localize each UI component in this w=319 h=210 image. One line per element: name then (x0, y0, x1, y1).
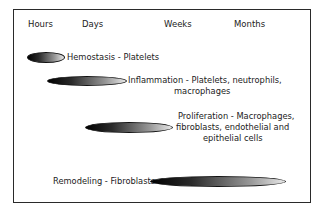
proliferation-label-line-2: fibroblasts, endothelial and (176, 122, 289, 133)
hemostasis-duration-bar (27, 52, 65, 63)
proliferation-duration-bar (85, 122, 173, 133)
timeline-label-days: Days (82, 19, 103, 30)
proliferation-label-line-3: epithelial cells (203, 133, 263, 144)
diagram-frame (13, 9, 311, 203)
remodeling-duration-bar (150, 176, 286, 187)
timeline-label-weeks: Weeks (164, 19, 192, 30)
inflammation-label-line-2: macrophages (174, 86, 230, 97)
proliferation-label-line-1: Proliferation - Macrophages, (178, 111, 295, 122)
hemostasis-label: Hemostasis - Platelets (67, 52, 159, 63)
inflammation-label-line-1: Inflammation - Platelets, neutrophils, (128, 75, 282, 86)
remodeling-label: Remodeling - Fibroblasts (53, 176, 155, 187)
timeline-label-months: Months (234, 19, 265, 30)
timeline-label-hours: Hours (28, 19, 53, 30)
inflammation-duration-bar (47, 76, 127, 86)
